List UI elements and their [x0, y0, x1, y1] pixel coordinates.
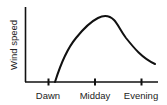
- x-tick-label-dawn: Dawn: [36, 90, 60, 101]
- y-axis-label: Wind speed: [8, 20, 19, 70]
- wind-speed-chart: Dawn Midday Evening Wind speed: [0, 0, 167, 105]
- wind-speed-curve: [55, 16, 155, 82]
- x-tick-label-evening: Evening: [124, 90, 158, 101]
- x-tick-label-midday: Midday: [80, 90, 111, 101]
